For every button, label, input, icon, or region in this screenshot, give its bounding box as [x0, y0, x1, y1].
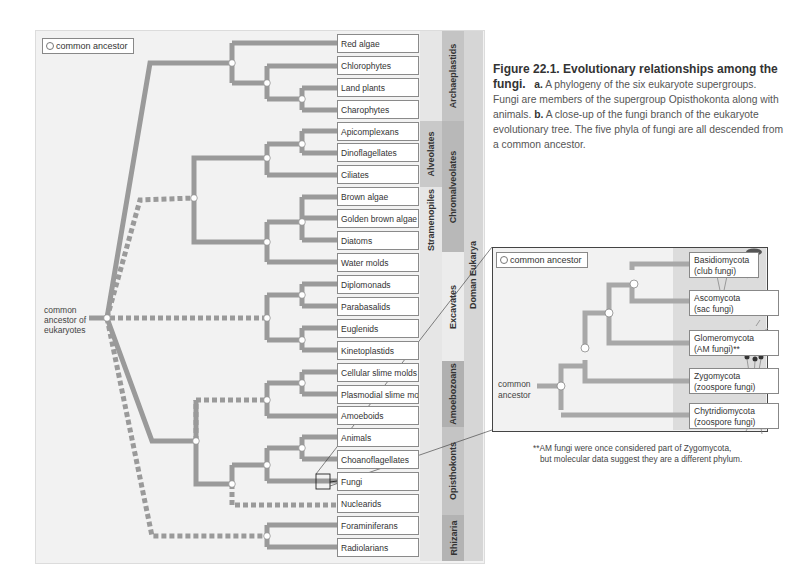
phylum-ascomycota: Ascomycota (sac fungi) [689, 290, 779, 316]
fungi-tree [0, 0, 786, 573]
legend-panel-b: common ancestor [496, 252, 588, 268]
phylum-glomeromycota: Glomeromycota (AM fungi)** [689, 330, 779, 356]
phylum-chytridiomycota: Chytridiomycota (zoospore fungi) [689, 403, 779, 429]
phylum-zygomycota: Zygomycota (zoospore fungi) [689, 368, 779, 394]
root-label-fungi: common ancestor [498, 379, 531, 401]
common-ancestor-node-icon [500, 256, 508, 264]
phylum-basidiomycota: Basidiomycota (club fungi) [689, 252, 759, 278]
footnote: **AM fungi were once considered part of … [533, 443, 783, 465]
